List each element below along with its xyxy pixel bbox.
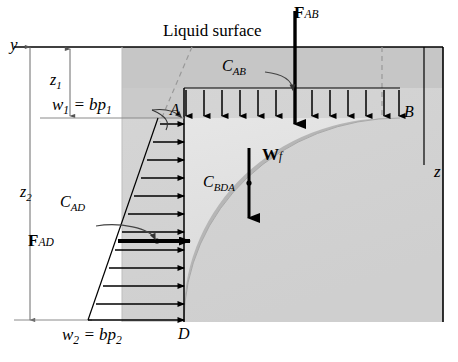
depth-z2-label: z2 [20,184,32,203]
centroid-ad-label: CAD [60,194,85,213]
point-a-label: A [170,102,180,118]
centroid-ab-label: CAB [222,58,246,77]
load-w1-label: w1 = bp1 [52,96,112,117]
point-b-label: B [404,104,414,120]
depth-z1-label: z1 [50,72,62,91]
axis-z-label: z [434,163,441,180]
figure-canvas: y z Liquid surface z1 z2 w1 = bp1 w2 = b… [0,0,458,362]
liquid-surface-label: Liquid surface [163,22,262,39]
load-w2-label: w2 = bp2 [62,326,122,347]
centroid-bda-label: CBDA [203,174,235,193]
weight-label: Wf [262,146,282,163]
point-d-label: D [178,326,190,342]
force-ad-label: FAD [28,232,54,249]
force-ad-arrow [118,238,190,243]
force-ab-label: FAB [294,4,319,21]
axis-y-label: y [10,36,18,53]
